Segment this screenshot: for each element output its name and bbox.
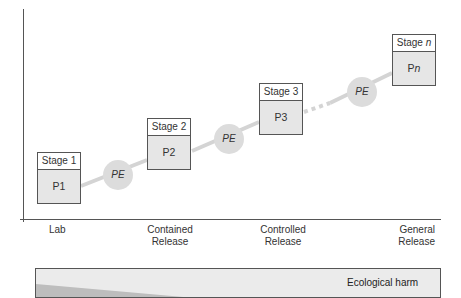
stage-3-body: P3	[260, 101, 302, 134]
x-label-contained-line2: Release	[140, 236, 200, 248]
x-label-contained-release: Contained Release	[140, 224, 200, 248]
stage-n-header-prefix: Stage	[397, 37, 426, 48]
x-axis-line	[20, 219, 441, 220]
pe-connector-2: PE	[214, 124, 244, 154]
stage-1-body: P1	[38, 170, 80, 203]
y-axis-line	[23, 9, 24, 222]
x-label-general-release: General Release	[385, 224, 435, 248]
stage-3-header: Stage 3	[260, 84, 302, 101]
stage-2-body: P2	[148, 136, 190, 169]
x-label-lab-line1: Lab	[49, 224, 66, 236]
x-label-contained-line1: Contained	[140, 224, 200, 236]
stage-1-header: Stage 1	[38, 153, 80, 170]
x-label-lab: Lab	[49, 224, 66, 236]
stage-n-box: Stage n Pn	[392, 34, 436, 86]
stage-2-box: Stage 2 P2	[147, 118, 191, 170]
stage-2-header: Stage 2	[148, 119, 190, 136]
ecological-harm-panel: Ecological harm	[35, 268, 441, 298]
pe-connector-3: PE	[347, 77, 377, 107]
stage-3-box: Stage 3 P3	[259, 83, 303, 135]
x-label-controlled-release: Controlled Release	[253, 224, 313, 248]
x-label-controlled-line1: Controlled	[253, 224, 313, 236]
stage-n-body-prefix: P	[408, 62, 415, 74]
x-label-controlled-line2: Release	[253, 236, 313, 248]
stage-n-body: Pn	[393, 52, 435, 85]
ecological-harm-label: Ecological harm	[347, 277, 418, 288]
stage-1-box: Stage 1 P1	[37, 152, 81, 204]
stage-n-header: Stage n	[393, 35, 435, 52]
stage-n-body-index: n	[415, 62, 421, 74]
stage-n-header-index: n	[426, 37, 432, 48]
x-label-general-line2: Release	[385, 236, 435, 248]
x-label-general-line1: General	[385, 224, 435, 236]
pe-connector-1: PE	[103, 160, 133, 190]
